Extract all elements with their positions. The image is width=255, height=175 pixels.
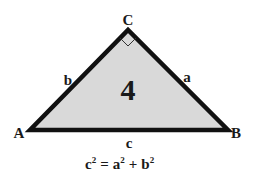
side-label-a: a <box>183 69 191 85</box>
formula-exp-c: 2 <box>92 155 97 165</box>
side-label-b: b <box>64 72 72 88</box>
formula-plus: + <box>129 156 138 172</box>
formula-exp-a: 2 <box>120 155 125 165</box>
triangle-diagram: C A B b a c 4 c2=a2+b2 <box>0 0 255 175</box>
vertex-label-c: C <box>123 12 134 28</box>
pythagorean-formula: c2=a2+b2 <box>85 155 155 172</box>
side-label-c: c <box>126 135 133 151</box>
vertex-label-a: A <box>14 125 25 141</box>
formula-b: b <box>141 156 149 172</box>
formula-exp-b: 2 <box>150 155 155 165</box>
formula-equals: = <box>100 156 109 172</box>
center-number-label: 4 <box>121 73 136 106</box>
vertex-label-b: B <box>231 125 241 141</box>
